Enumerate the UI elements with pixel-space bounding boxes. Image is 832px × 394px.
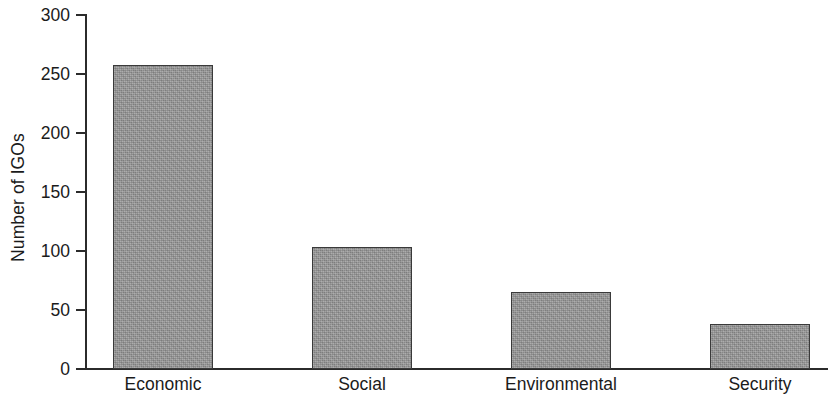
y-axis-tick	[76, 309, 86, 311]
y-axis-tick-label: 0	[60, 359, 70, 380]
y-axis-tick-label: 50	[51, 300, 70, 321]
y-axis-tick	[76, 368, 86, 370]
y-axis-tick-label: 100	[41, 241, 70, 262]
plot-area: 050100150200250300 EconomicSocialEnviron…	[0, 0, 832, 394]
x-axis-label: Environmental	[505, 374, 617, 394]
x-axis-label: Social	[338, 374, 386, 394]
y-axis-tick-label: 250	[41, 64, 70, 85]
y-axis-tick-label: 300	[41, 5, 70, 26]
bar	[710, 324, 810, 369]
y-axis-tick	[76, 250, 86, 252]
bar-chart: Number of IGOs 050100150200250300 Econom…	[0, 0, 832, 394]
y-axis-tick	[76, 73, 86, 75]
y-axis-tick	[76, 14, 86, 16]
y-axis-tick-label: 150	[41, 182, 70, 203]
x-axis-label: Economic	[125, 374, 202, 394]
bar	[113, 65, 213, 369]
bar	[511, 292, 611, 369]
y-axis-tick	[76, 132, 86, 134]
x-axis-label: Security	[728, 374, 791, 394]
y-axis-tick-label: 200	[41, 123, 70, 144]
y-axis-tick	[76, 191, 86, 193]
bar	[312, 247, 412, 369]
